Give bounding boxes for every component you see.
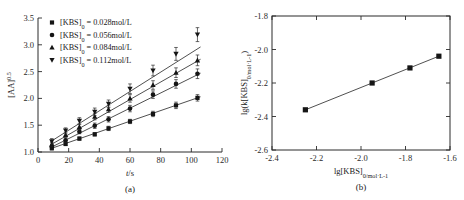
circle-marker <box>77 129 82 134</box>
panel-b-ytick: -2.2 <box>255 78 268 88</box>
square-marker <box>106 126 110 130</box>
panel-b-ylabel: lg(k[KBS]0/mol·L-1) <box>239 51 252 115</box>
panel-a-plot: 0204060801001201.01.52.02.53.03.5t/s[AA]… <box>0 0 232 200</box>
panel-a-ytick: 3.5 <box>23 13 34 23</box>
panel-b-ytick: -2.4 <box>255 112 269 122</box>
panel-a-ytick: 2.5 <box>23 67 34 77</box>
triangle-down-marker <box>49 58 54 63</box>
triangle-up-marker <box>150 82 155 87</box>
legend-label-2: [KBS]0 = 0.056mol/L <box>60 31 132 43</box>
square-marker <box>436 54 441 59</box>
circle-marker <box>195 71 200 76</box>
square-marker <box>195 96 199 100</box>
panel-b: -2.4-2.2-2.0-1.8-1.6-1.8-2.0-2.2-2.4-2.6… <box>232 0 464 200</box>
panel-a-labels: t/s[AA]0.5(a) <box>5 72 136 194</box>
panel-b-series <box>303 54 442 113</box>
circle-marker <box>106 117 111 122</box>
square-marker <box>77 137 81 141</box>
panel-a-xtick: 60 <box>126 155 135 165</box>
square-marker <box>93 132 97 136</box>
panel-a-ylabel: [AA]0.5 <box>5 72 17 98</box>
panel-b-xlabel: lg[KBS]0/mol·L-1 <box>334 166 388 179</box>
panel-a-legend: [KBS]0 = 0.028mol/L[KBS]0 = 0.056mol/L[K… <box>49 18 131 67</box>
legend-label-4: [KBS]0 = 0.112mol/L <box>60 56 131 68</box>
series-2 <box>49 69 200 149</box>
triangle-up-marker <box>49 45 54 50</box>
triangle-down-marker <box>77 119 82 124</box>
panel-b-ytick: -1.8 <box>255 11 268 21</box>
panel-a-xtick: 40 <box>95 155 104 165</box>
triangle-down-marker <box>195 33 200 38</box>
panel-a-xtick: 80 <box>156 155 165 165</box>
circle-marker <box>174 82 179 87</box>
panel-a-ytick: 3.0 <box>23 40 34 50</box>
panel-b-ytick: -2.6 <box>255 145 268 155</box>
circle-marker <box>128 106 133 111</box>
figure-container: 0204060801001201.01.52.02.53.03.5t/s[AA]… <box>0 0 464 200</box>
circle-marker <box>92 123 97 128</box>
triangle-down-marker <box>173 52 178 57</box>
circle-marker <box>63 138 68 143</box>
panel-b-xtick: -1.6 <box>443 153 456 163</box>
panel-b-axes: -2.4-2.2-2.0-1.8-1.6-1.8-2.0-2.2-2.4-2.6 <box>255 11 457 163</box>
panel-a-ytick: 2.0 <box>23 93 34 103</box>
panel-a-caption: (a) <box>125 184 135 194</box>
panel-a: 0204060801001201.01.52.02.53.03.5t/s[AA]… <box>0 0 232 200</box>
panel-b-plot: -2.4-2.2-2.0-1.8-1.6-1.8-2.0-2.2-2.4-2.6… <box>232 0 464 200</box>
circle-marker <box>50 33 55 38</box>
square-marker <box>151 112 155 116</box>
panel-a-xtick: 20 <box>64 155 73 165</box>
square-marker <box>50 20 54 24</box>
square-marker <box>370 80 375 85</box>
square-marker <box>407 65 412 70</box>
square-marker <box>174 103 178 107</box>
panel-b-xtick: -2.2 <box>310 153 323 163</box>
triangle-down-marker <box>150 68 155 73</box>
circle-marker <box>151 92 156 97</box>
panel-b-ytick: -2.0 <box>255 45 268 55</box>
panel-b-xtick: -1.8 <box>399 153 412 163</box>
legend-label-3: [KBS]0 = 0.084mol/L <box>60 43 132 55</box>
panel-a-xtick: 120 <box>216 155 229 165</box>
panel-b-xtick: -2.0 <box>354 153 367 163</box>
panel-a-ytick: 1.0 <box>23 147 34 157</box>
panel-a-ytick: 1.5 <box>23 120 34 130</box>
panel-b-caption: (b) <box>356 182 367 192</box>
panel-a-xtick: 100 <box>185 155 198 165</box>
panel-a-xlabel: t/s <box>126 168 134 178</box>
legend-label-1: [KBS]0 = 0.028mol/L <box>60 18 132 30</box>
square-marker <box>303 107 308 112</box>
series-3 <box>49 55 200 147</box>
series-1 <box>50 95 201 151</box>
square-marker <box>128 119 132 123</box>
panel-a-xtick: 0 <box>36 155 40 165</box>
